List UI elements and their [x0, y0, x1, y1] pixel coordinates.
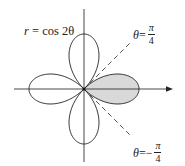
fraction: π4 — [148, 23, 155, 46]
curve-equation-label: r = cos 2θ — [24, 25, 74, 38]
theta-neg-pi-over-4-label: θ = − π4 — [133, 141, 161, 164]
origin-point — [82, 87, 85, 90]
x-axis-arrow-icon — [166, 86, 173, 92]
theta-pi-over-4-label: θ = π4 — [133, 23, 155, 46]
fraction: π4 — [154, 141, 161, 164]
